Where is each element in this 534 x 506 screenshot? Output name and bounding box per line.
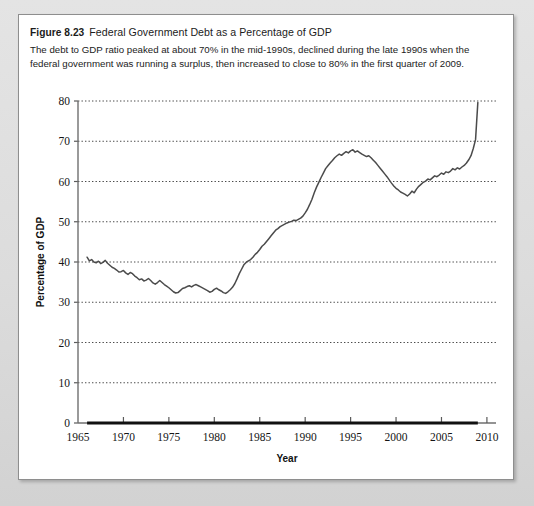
figure-caption-block: Figure 8.23Federal Government Debt as a …: [30, 25, 500, 71]
figure-number: Figure 8.23: [30, 27, 84, 38]
y-tick-label-30: 30: [59, 296, 71, 308]
figure-title: Federal Government Debt as a Percentage …: [84, 26, 332, 38]
y-tick-label-0: 0: [64, 417, 70, 429]
debt-to-gdp-line-chart: 01020304050607080 1965197019751980198519…: [30, 87, 504, 469]
x-tick-label-1970: 1970: [112, 431, 135, 443]
x-tick-label-1990: 1990: [294, 431, 317, 443]
x-tick-label-2005: 2005: [430, 431, 453, 443]
x-tick-labels-group: 1965197019751980198519901995200020052010: [67, 431, 499, 443]
x-tick-label-2010: 2010: [475, 431, 498, 443]
x-tick-label-1965: 1965: [67, 431, 90, 443]
y-tick-labels-group: 01020304050607080: [59, 95, 71, 429]
y-axis-title: Percentage of GDP: [35, 216, 46, 307]
figure-description: The debt to GDP ratio peaked at about 70…: [30, 43, 493, 71]
x-tick-label-1975: 1975: [157, 431, 180, 443]
y-tick-label-50: 50: [59, 216, 71, 228]
x-tick-label-1985: 1985: [248, 431, 271, 443]
x-tick-label-2000: 2000: [385, 431, 408, 443]
y-tick-label-70: 70: [59, 135, 71, 147]
y-tick-label-80: 80: [59, 95, 71, 107]
figure-title-line: Figure 8.23Federal Government Debt as a …: [30, 25, 500, 40]
y-tick-label-40: 40: [59, 256, 71, 268]
x-tick-label-1995: 1995: [339, 431, 362, 443]
y-tick-label-20: 20: [59, 337, 71, 349]
gridlines-group: [78, 101, 496, 383]
x-axis-title: Year: [276, 453, 297, 464]
figure-card: Figure 8.23Federal Government Debt as a …: [18, 14, 514, 480]
x-tick-label-1980: 1980: [203, 431, 226, 443]
debt-series-line: [87, 103, 478, 294]
y-tick-label-60: 60: [59, 176, 71, 188]
page-background: Figure 8.23Federal Government Debt as a …: [0, 0, 534, 506]
chart-plot-area: 01020304050607080 1965197019751980198519…: [30, 87, 504, 469]
y-tick-label-10: 10: [59, 377, 71, 389]
